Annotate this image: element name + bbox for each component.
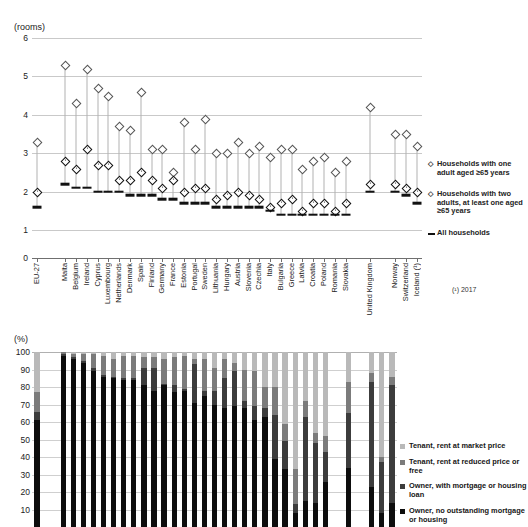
bar-segment <box>151 391 156 527</box>
legend-color-swatch <box>400 484 405 489</box>
bar-segment <box>232 363 237 372</box>
x-axis-tick <box>417 258 418 262</box>
bar-segment <box>252 420 257 527</box>
open-diamond-marker <box>61 60 71 70</box>
y-axis-tick-label: 80 <box>8 383 30 391</box>
bar-segment <box>101 375 106 377</box>
x-axis-category-label: Switzerland <box>402 263 409 301</box>
bar-segment <box>192 359 197 364</box>
stacked-bar <box>71 352 76 527</box>
x-axis-tick <box>281 258 282 262</box>
stacked-bar <box>313 352 318 527</box>
stacked-bar <box>161 352 166 527</box>
x-axis-category-label: Poland <box>320 263 327 286</box>
open-diamond-marker <box>212 149 222 159</box>
stacked-bar <box>101 352 106 527</box>
bar-segment <box>172 385 177 392</box>
x-axis-category-label: Latvia <box>298 263 305 283</box>
x-axis-tick <box>216 258 217 262</box>
x-axis-category-label: Slovenia <box>245 263 252 291</box>
open-diamond-marker <box>298 164 308 174</box>
stacked-bar <box>131 352 136 527</box>
bar-segment <box>293 469 298 504</box>
bar-segment <box>121 380 126 527</box>
range-stem <box>97 88 98 192</box>
y-axis-tick-label: 40 <box>8 453 30 461</box>
bar-segment <box>379 513 384 527</box>
bar-segment <box>202 396 207 527</box>
bar-segment <box>389 377 394 386</box>
x-axis-tick <box>37 258 38 262</box>
open-diamond-marker <box>33 137 43 147</box>
x-axis-tick <box>370 258 371 262</box>
bar-segment <box>232 406 237 527</box>
figure2-legend: Tenant, rent at market priceTenant, rent… <box>400 442 528 527</box>
x-axis-category-label: Sweden <box>201 263 208 290</box>
figure2-unit-label: (%) <box>14 334 28 344</box>
bar-segment <box>293 504 298 513</box>
open-diamond-marker <box>223 149 233 159</box>
bar-segment <box>161 359 166 384</box>
legend-item: Owner, with mortgage or housing loan <box>400 482 528 500</box>
all-households-dash-marker <box>233 206 242 209</box>
filled-diamond-marker <box>190 183 200 193</box>
bar-segment <box>71 359 76 527</box>
x-axis-tick <box>173 258 174 262</box>
bar-segment <box>313 503 318 527</box>
bar-segment <box>131 380 136 527</box>
bar-segment <box>369 373 374 382</box>
bar-segment <box>222 352 227 359</box>
open-diamond-marker <box>93 83 103 93</box>
legend-color-swatch <box>400 509 405 514</box>
legend-item: ◇Households with one adult aged ≥65 year… <box>428 160 528 177</box>
y-axis-tick-label: 1 <box>10 226 28 234</box>
x-axis-tick <box>119 258 120 262</box>
open-diamond-marker <box>412 141 422 151</box>
bar-segment <box>111 352 116 359</box>
stacked-bar <box>389 352 394 527</box>
legend-color-swatch <box>400 460 405 465</box>
bar-segment <box>323 352 328 436</box>
bar-segment <box>161 385 166 527</box>
all-households-dash-marker <box>309 213 318 216</box>
filled-diamond-marker <box>212 195 222 205</box>
x-axis-tick <box>162 258 163 262</box>
filled-diamond-marker <box>169 176 179 186</box>
stacked-bar <box>379 352 384 527</box>
stacked-bar <box>192 352 197 527</box>
x-axis-category-label: Finland <box>148 263 155 287</box>
x-axis-category-label: Spain <box>137 263 144 282</box>
open-diamond-marker <box>309 156 319 166</box>
stacked-bar <box>323 352 328 527</box>
x-axis-tick <box>98 258 99 262</box>
x-axis-tick <box>152 258 153 262</box>
all-households-dash-marker <box>33 206 42 209</box>
bar-segment <box>141 385 146 527</box>
y-axis-tick-label: 3 <box>10 149 28 157</box>
x-axis-tick <box>65 258 66 262</box>
x-axis-tick <box>130 258 131 262</box>
all-households-dash-marker <box>212 206 221 209</box>
bar-segment <box>346 352 351 382</box>
open-diamond-marker <box>341 156 351 166</box>
gridline <box>32 230 422 231</box>
stacked-bar <box>34 352 39 527</box>
x-axis-tick <box>302 258 303 262</box>
bar-segment <box>141 357 146 368</box>
stacked-bar <box>222 352 227 527</box>
bar-segment <box>369 352 374 373</box>
bar-segment <box>91 368 96 372</box>
bar-segment <box>242 401 247 408</box>
bar-segment <box>71 352 76 354</box>
filled-diamond-marker <box>104 160 114 170</box>
stacked-bar <box>293 352 298 527</box>
legend-item: Tenant, rent at reduced price or free <box>400 458 528 476</box>
all-households-dash-marker <box>104 190 113 193</box>
bar-segment <box>379 462 384 513</box>
dot-range-chart: (rooms) 6543210 EU-27MaltaBelgiumIreland… <box>0 0 528 330</box>
x-axis-category-label: Slovakia <box>342 263 349 291</box>
legend-item-label: Owner, with mortgage or housing loan <box>409 481 526 499</box>
all-households-dash-marker <box>190 202 199 205</box>
bar-segment <box>272 352 277 387</box>
all-households-dash-marker <box>244 206 253 209</box>
